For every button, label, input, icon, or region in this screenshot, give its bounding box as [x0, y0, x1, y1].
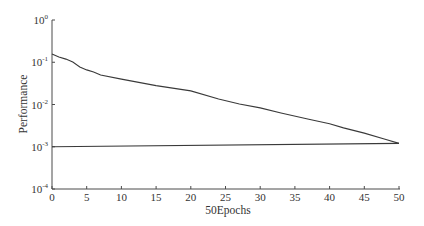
y-axis-ticks: 10010-110-210-310-4 [31, 13, 55, 195]
x-tick-label: 45 [359, 191, 371, 203]
x-tick-label: 15 [151, 191, 163, 203]
series-goal-line [52, 143, 399, 146]
x-axis-label: 50Epochs [205, 204, 251, 217]
series-lines [52, 54, 399, 147]
y-axis-label: Performance [17, 75, 29, 134]
x-tick-label: 5 [84, 191, 90, 203]
x-tick-label: 25 [220, 191, 232, 203]
x-tick-label: 20 [185, 191, 197, 203]
series-training-line [52, 54, 399, 143]
axes [52, 20, 400, 189]
x-tick-label: 35 [289, 191, 301, 203]
x-tick-label: 30 [255, 191, 267, 203]
performance-chart: 05101520253035404550 10010-110-210-310-4… [0, 0, 424, 226]
y-tick-label: 10-1 [31, 55, 48, 68]
x-tick-label: 50 [394, 191, 406, 203]
y-tick-label: 10-3 [31, 140, 48, 153]
y-tick-label: 10-4 [31, 182, 48, 195]
x-tick-label: 0 [49, 191, 55, 203]
x-tick-label: 40 [324, 191, 336, 203]
x-tick-label: 10 [116, 191, 128, 203]
y-tick-label: 10-2 [31, 98, 48, 111]
y-tick-label: 100 [34, 13, 49, 26]
